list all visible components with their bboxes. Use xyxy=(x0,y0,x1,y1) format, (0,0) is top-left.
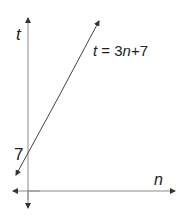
t-axis-label: t xyxy=(16,25,22,44)
equation-rest: +7 xyxy=(131,42,148,59)
equation-label: t = 3n+7 xyxy=(93,42,148,59)
equation-var: n xyxy=(123,42,131,59)
graph-canvas: t 7 n t = 3n+7 xyxy=(0,0,181,219)
y-intercept-label: 7 xyxy=(14,145,23,164)
equation-eq: = 3 xyxy=(97,42,122,59)
n-axis-label: n xyxy=(154,171,163,188)
